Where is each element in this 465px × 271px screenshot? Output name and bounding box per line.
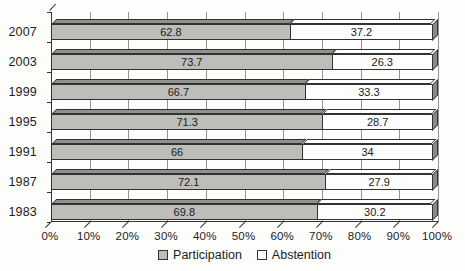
participation-value: 71.3 [52,115,322,129]
participation-value: 69.8 [52,205,317,219]
abstention-segment[interactable]: 33.3 [306,84,433,100]
abstention-value: 26.3 [333,55,432,69]
bar-row: 73.7 26.3 [51,42,438,72]
year-label: 1995 [8,107,37,137]
abstention-top-face [325,169,436,174]
stacked-bar[interactable]: 73.7 26.3 [51,54,433,70]
participation-top-face [51,169,329,174]
stacked-bar[interactable]: 69.8 30.2 [51,204,433,220]
participation-segment[interactable]: 62.8 [51,24,291,40]
stacked-bar[interactable]: 66.7 33.3 [51,84,433,100]
stacked-bar[interactable]: 62.8 37.2 [51,24,433,40]
participation-value: 72.1 [52,175,325,189]
x-axis-tick [238,221,245,228]
participation-segment[interactable]: 66 [51,144,303,160]
x-axis-tick [122,221,129,228]
bar-row: 62.8 37.2 [51,12,438,42]
abstention-top-face [317,199,436,204]
x-axis-tick [200,221,207,228]
legend: Participation Abstention [51,246,438,264]
participation-swatch-icon [158,250,168,260]
abstention-segment[interactable]: 27.9 [326,174,433,190]
participation-value: 62.8 [52,25,290,39]
participation-value: 66 [52,145,302,159]
abstention-swatch-icon [257,250,267,260]
bar-end-cap-face [432,19,438,41]
participation-segment[interactable]: 73.7 [51,54,333,70]
gridline [438,12,439,221]
participation-top-face [51,19,294,24]
stacked-bar-chart: 2007200319991995199119871983 62.8 37.2 7… [0,0,465,271]
stacked-bar[interactable]: 66 34 [51,144,433,160]
participation-top-face [51,109,326,114]
bar-row: 66.7 33.3 [51,72,438,102]
abstention-value: 33.3 [306,85,432,99]
plot-area: 62.8 37.2 73.7 26.3 66.7 [51,12,438,222]
year-label: 2003 [8,47,37,77]
abstention-top-face [290,19,436,24]
abstention-value: 34 [303,145,432,159]
x-axis-tick [355,221,362,228]
axis-corner-tick [49,4,56,11]
participation-segment[interactable]: 72.1 [51,174,326,190]
x-axis-tick [432,221,439,228]
legend-label-participation: Participation [173,248,242,262]
x-axis-tick [277,221,284,228]
abstention-value: 30.2 [318,205,432,219]
x-axis-tick [84,221,91,228]
x-tick-label: 100% [414,230,460,242]
legend-label-abstention: Abstention [272,248,331,262]
participation-value: 66.7 [52,85,305,99]
year-label: 1991 [8,137,37,167]
x-axis: 0%10%20%30%40%50%60%70%80%90%100% [51,222,438,248]
participation-segment[interactable]: 69.8 [51,204,318,220]
year-label: 1987 [8,167,37,197]
abstention-segment[interactable]: 26.3 [333,54,433,70]
abstention-segment[interactable]: 34 [303,144,433,160]
bar-row: 69.8 30.2 [51,192,438,222]
participation-segment[interactable]: 71.3 [51,114,323,130]
abstention-value: 37.2 [291,25,432,39]
x-axis-tick [316,221,323,228]
x-axis-tick [161,221,168,228]
participation-top-face [51,199,321,204]
abstention-top-face [302,139,436,144]
y-axis-labels: 2007200319991995199119871983 [0,12,45,222]
stacked-bar[interactable]: 71.3 28.7 [51,114,433,130]
year-label: 1983 [8,197,37,227]
abstention-segment[interactable]: 28.7 [323,114,433,130]
participation-value: 73.7 [52,55,332,69]
abstention-value: 27.9 [326,175,432,189]
participation-top-face [51,79,309,84]
abstention-top-face [305,79,436,84]
participation-top-face [51,49,336,54]
bar-row: 71.3 28.7 [51,102,438,132]
abstention-top-face [322,109,436,114]
year-label: 1999 [8,77,37,107]
bar-row: 72.1 27.9 [51,162,438,192]
year-label: 2007 [8,17,37,47]
abstention-segment[interactable]: 30.2 [318,204,433,220]
bar-row: 66 34 [51,132,438,162]
abstention-value: 28.7 [323,115,432,129]
x-axis-tick [393,221,400,228]
stacked-bar[interactable]: 72.1 27.9 [51,174,433,190]
participation-top-face [51,139,306,144]
abstention-segment[interactable]: 37.2 [291,24,433,40]
abstention-top-face [332,49,436,54]
participation-segment[interactable]: 66.7 [51,84,306,100]
